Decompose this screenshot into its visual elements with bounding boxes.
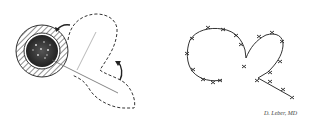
suture-marks [185, 26, 294, 99]
flap-diagram [0, 0, 309, 127]
incision-line [52, 60, 118, 93]
signature: D. Leber, MD [264, 110, 297, 116]
circular-defect [26, 35, 58, 67]
right-panel [185, 26, 294, 99]
dashed-flap-outline [68, 14, 135, 108]
left-panel [16, 14, 135, 108]
sutured-closure-right-loop [246, 34, 290, 96]
